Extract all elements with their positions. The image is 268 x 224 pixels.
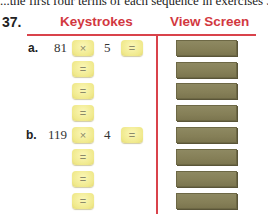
part-b-second-value: 4 (104, 127, 111, 143)
view-screen-display (176, 62, 237, 78)
view-screen-display (176, 149, 237, 165)
view-screen-display (176, 83, 237, 99)
intro-text-cut: ...the first four terms of each sequence… (0, 0, 268, 9)
multiply-key[interactable]: × (72, 40, 94, 56)
view-screen-display (176, 40, 237, 56)
view-screen-display (176, 105, 237, 121)
view-screen-display (176, 127, 237, 143)
equals-key[interactable]: = (72, 105, 94, 121)
multiply-key[interactable]: × (72, 127, 94, 143)
equals-key[interactable]: = (72, 171, 94, 187)
equals-key[interactable]: = (72, 193, 94, 209)
part-a-first-value: 81 (54, 40, 67, 56)
part-b-label: b. (26, 128, 37, 142)
header-divider (27, 34, 256, 36)
column-divider (156, 34, 158, 214)
equals-key[interactable]: = (72, 149, 94, 165)
keystrokes-header: Keystrokes (60, 14, 133, 29)
view-screen-header: View Screen (170, 14, 249, 29)
exercise-number: 37. (2, 14, 21, 30)
view-screen-display (176, 193, 237, 209)
equals-key[interactable]: = (121, 40, 143, 56)
view-screen-display (176, 171, 237, 187)
part-a-label: a. (28, 41, 38, 55)
part-b-first-value: 119 (48, 127, 67, 143)
equals-key[interactable]: = (121, 127, 143, 143)
equals-key[interactable]: = (72, 61, 94, 77)
part-a-second-value: 5 (104, 40, 111, 56)
equals-key[interactable]: = (72, 83, 94, 99)
